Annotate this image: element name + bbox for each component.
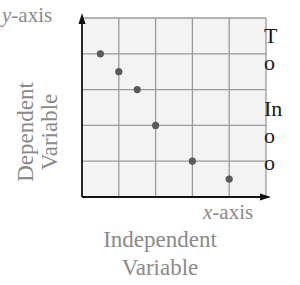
side-text-line: o: [264, 149, 282, 176]
dependent-variable-label: Dependent Variable: [14, 42, 62, 222]
data-point: [152, 122, 159, 129]
x-axis-label: x-axis: [203, 200, 253, 224]
y-axis-label: y-axis: [2, 3, 52, 27]
dependent-line1: Dependent: [14, 42, 38, 222]
x-axis-var: x: [203, 200, 212, 224]
data-point: [189, 158, 196, 165]
data-point: [226, 176, 233, 183]
y-axis-var: y: [2, 3, 11, 27]
side-text-line: o: [264, 122, 282, 149]
data-point: [134, 86, 141, 93]
dependent-line2: Variable: [38, 42, 62, 222]
data-point: [97, 50, 104, 57]
y-axis-suffix: -axis: [11, 3, 52, 27]
side-paragraph-text: T o In o o: [264, 22, 282, 176]
independent-line2: Variable: [70, 254, 250, 282]
independent-variable-label: Independent Variable: [70, 226, 250, 282]
x-axis-suffix: -axis: [212, 200, 253, 224]
independent-line1: Independent: [70, 226, 250, 254]
plot-area: [82, 18, 266, 197]
side-text-line: o: [264, 49, 282, 76]
side-text-line: In: [264, 95, 282, 122]
side-text-line: T: [264, 22, 282, 49]
data-point: [115, 68, 122, 75]
